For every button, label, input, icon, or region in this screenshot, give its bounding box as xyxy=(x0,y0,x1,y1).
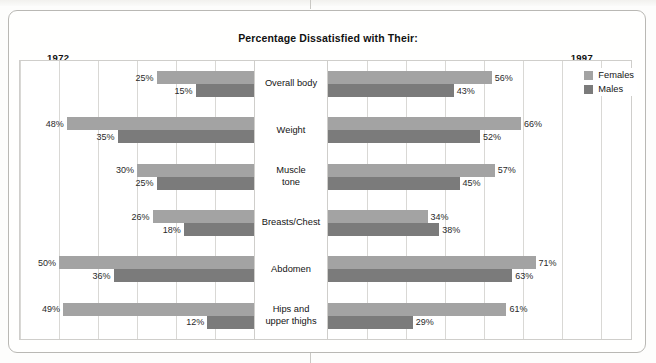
bar-male xyxy=(118,130,255,143)
chart-title: Percentage Dissatisfied with Their: xyxy=(9,32,647,44)
bar-value-label: 15% xyxy=(174,86,192,96)
bar-row-male: 29% xyxy=(328,316,631,329)
category-label-weight: Weight xyxy=(255,107,327,153)
bar-row-female: 50% xyxy=(20,256,254,269)
bar-row-male: 12% xyxy=(20,316,254,329)
bar-male xyxy=(114,269,254,282)
bar-value-label: 52% xyxy=(483,132,501,142)
bar-female xyxy=(328,117,521,130)
bar-female xyxy=(328,303,506,316)
bar-male xyxy=(328,130,480,143)
bar-male xyxy=(328,269,512,282)
bar-value-label: 61% xyxy=(509,304,527,314)
bar-male xyxy=(328,84,454,97)
bar-row-female: 26% xyxy=(20,210,254,223)
bar-group-weight: 66% 52% xyxy=(328,107,631,153)
page-spine-top xyxy=(310,0,311,9)
bars-right: 56% 43% 66% 52% xyxy=(328,61,631,339)
bar-value-label: 66% xyxy=(524,119,542,129)
bar-row-female: 49% xyxy=(20,303,254,316)
bar-female xyxy=(328,210,428,223)
page-spine-bottom xyxy=(310,352,311,363)
bar-value-label: 29% xyxy=(416,317,434,327)
bar-value-label: 34% xyxy=(431,212,449,222)
bar-value-label: 18% xyxy=(163,225,181,235)
legend-label-females: Females xyxy=(598,70,634,80)
category-label-muscle-tone: Muscle tone xyxy=(255,154,327,200)
bar-row-female: 30% xyxy=(20,164,254,177)
category-label-overall-body: Overall body xyxy=(255,61,327,107)
legend-swatch-icon-females xyxy=(584,71,593,80)
bar-value-label: 25% xyxy=(135,178,153,188)
bar-row-male: 38% xyxy=(328,223,631,236)
bar-female xyxy=(67,117,254,130)
bar-row-male: 25% xyxy=(20,177,254,190)
bar-value-label: 25% xyxy=(135,73,153,83)
bar-row-female: 57% xyxy=(328,164,631,177)
legend-swatch-icon-males xyxy=(584,85,593,94)
legend-item-males[interactable]: Males xyxy=(584,84,634,94)
bar-group-hips-upper-thighs: 61% 29% xyxy=(328,293,631,339)
bar-male xyxy=(196,84,255,97)
bar-value-label: 57% xyxy=(498,165,516,175)
bar-female xyxy=(59,256,254,269)
bar-value-label: 12% xyxy=(186,317,204,327)
bar-female xyxy=(63,303,254,316)
bar-row-male: 52% xyxy=(328,130,631,143)
bar-value-label: 36% xyxy=(93,271,111,281)
bar-value-label: 48% xyxy=(46,119,64,129)
bar-value-label: 26% xyxy=(132,212,150,222)
page-edge xyxy=(0,0,656,6)
bar-row-male: 35% xyxy=(20,130,254,143)
bar-group-muscle-tone: 57% 45% xyxy=(328,154,631,200)
bar-row-male: 15% xyxy=(20,84,254,97)
bar-row-female: 48% xyxy=(20,117,254,130)
bar-female xyxy=(328,164,495,177)
bar-value-label: 50% xyxy=(38,258,56,268)
bar-value-label: 30% xyxy=(116,165,134,175)
bar-row-male: 36% xyxy=(20,269,254,282)
bar-value-label: 49% xyxy=(42,304,60,314)
bar-value-label: 56% xyxy=(495,73,513,83)
bar-male xyxy=(328,316,413,329)
bar-group-muscle-tone: 30% 25% xyxy=(20,154,254,200)
bar-male xyxy=(184,223,254,236)
bar-male xyxy=(207,316,254,329)
bar-group-breasts-chest: 26% 18% xyxy=(20,200,254,246)
bar-value-label: 45% xyxy=(463,178,481,188)
bar-group-abdomen: 50% 36% xyxy=(20,246,254,292)
plot-area: 25% 15% 48% 35% xyxy=(19,60,632,340)
category-label-line1: Hips and xyxy=(273,304,310,314)
panel-1997: 56% 43% 66% 52% xyxy=(327,61,631,339)
bar-row-female: 66% xyxy=(328,117,631,130)
bar-row-female: 71% xyxy=(328,256,631,269)
legend-label-males: Males xyxy=(598,84,623,94)
figure-frame: Percentage Dissatisfied with Their: 1972… xyxy=(8,10,646,353)
bar-row-female: 61% xyxy=(328,303,631,316)
bars-left: 25% 15% 48% 35% xyxy=(20,61,254,339)
category-label-abdomen: Abdomen xyxy=(255,246,327,292)
bar-value-label: 71% xyxy=(539,258,557,268)
bar-row-female: 25% xyxy=(20,71,254,84)
bar-female xyxy=(137,164,254,177)
bar-group-hips-upper-thighs: 49% 12% xyxy=(20,293,254,339)
category-label-hips-upper-thighs: Hips and upper thighs xyxy=(255,293,327,339)
bar-group-breasts-chest: 34% 38% xyxy=(328,200,631,246)
legend-item-females[interactable]: Females xyxy=(584,70,634,80)
bar-value-label: 38% xyxy=(442,225,460,235)
bar-value-label: 63% xyxy=(515,271,533,281)
bar-male xyxy=(328,223,439,236)
bar-female xyxy=(328,71,492,84)
bar-value-label: 43% xyxy=(457,86,475,96)
bar-row-male: 18% xyxy=(20,223,254,236)
bar-male xyxy=(328,177,460,190)
bar-female xyxy=(157,71,255,84)
bar-row-male: 63% xyxy=(328,269,631,282)
bar-female xyxy=(153,210,254,223)
category-label-line2: upper thighs xyxy=(265,316,316,326)
bar-group-abdomen: 71% 63% xyxy=(328,246,631,292)
bar-male xyxy=(157,177,255,190)
bar-female xyxy=(328,256,536,269)
category-label-line1: Muscle xyxy=(276,165,305,175)
category-label-breasts-chest: Breasts/Chest xyxy=(255,200,327,246)
